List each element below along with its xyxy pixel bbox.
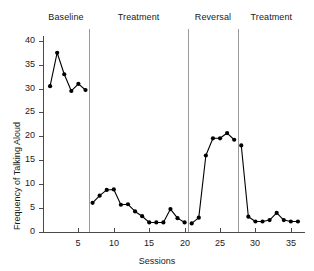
data-point — [183, 220, 187, 224]
data-point — [76, 82, 80, 86]
data-point — [225, 131, 229, 135]
data-point — [161, 220, 165, 224]
data-point — [246, 215, 250, 219]
data-point — [126, 202, 130, 206]
series-line-segment-1 — [50, 53, 85, 91]
series-line-segment-4 — [241, 145, 298, 221]
data-point — [260, 219, 264, 223]
data-point — [105, 188, 109, 192]
chart-container: BaselineTreatmentReversalTreatment 05101… — [0, 0, 314, 271]
data-point — [289, 219, 293, 223]
data-point — [112, 187, 116, 191]
data-point — [62, 72, 66, 76]
data-series-layer — [0, 0, 314, 271]
data-point — [154, 220, 158, 224]
data-point — [48, 84, 52, 88]
data-point — [90, 201, 94, 205]
x-axis-title: Sessions — [0, 256, 314, 266]
y-axis-title: Frequency of Talking Aloud — [12, 122, 22, 230]
data-point — [282, 218, 286, 222]
data-point — [133, 209, 137, 213]
data-point — [296, 219, 300, 223]
data-point — [140, 214, 144, 218]
data-point — [83, 88, 87, 92]
data-point — [197, 216, 201, 220]
data-point — [211, 136, 215, 140]
data-point — [239, 143, 243, 147]
data-point — [253, 219, 257, 223]
series-line-segment-3 — [192, 133, 234, 223]
series-line-segment-2 — [93, 189, 185, 222]
data-point — [119, 203, 123, 207]
data-point — [267, 218, 271, 222]
data-point — [232, 138, 236, 142]
data-point — [98, 194, 102, 198]
data-point — [55, 51, 59, 55]
data-point — [190, 221, 194, 225]
data-point — [69, 89, 73, 93]
data-point — [218, 136, 222, 140]
data-point — [175, 216, 179, 220]
data-point — [204, 153, 208, 157]
data-point — [275, 211, 279, 215]
data-point — [168, 207, 172, 211]
data-point — [147, 220, 151, 224]
